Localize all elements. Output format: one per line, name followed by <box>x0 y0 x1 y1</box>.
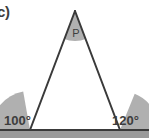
exterior-angle-right-label: 120° <box>112 113 139 128</box>
figure-canvas: c) P 100° 120° <box>0 0 149 138</box>
geometry-figure: c) P 100° 120° <box>0 0 149 138</box>
apex-angle-label: P <box>72 27 79 39</box>
exterior-angle-left-label: 100° <box>4 113 31 128</box>
part-label: c) <box>0 3 10 20</box>
baseline-band <box>0 131 149 138</box>
